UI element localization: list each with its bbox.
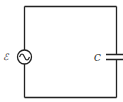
circuit-diagram: ℰ C bbox=[0, 0, 123, 102]
source-label: ℰ bbox=[3, 52, 10, 62]
wires bbox=[25, 7, 117, 98]
capacitor-icon bbox=[106, 55, 123, 60]
capacitor-label: C bbox=[94, 53, 101, 63]
ac-source-icon bbox=[18, 50, 32, 64]
